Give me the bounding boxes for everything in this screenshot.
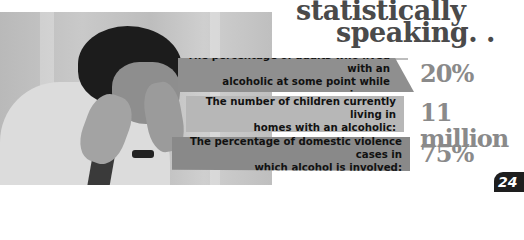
stat-label-line: homes with an alcoholic: (254, 121, 396, 134)
page-number-badge: 24 (494, 172, 524, 192)
stat-label-line: The percentage of domestic violence case… (172, 135, 402, 161)
stat-value-domestic-violence: 75% (420, 141, 473, 167)
stat-label-children-living: The number of children currently living … (186, 96, 404, 132)
stat-label-line: which alcohol is involved: (254, 161, 402, 174)
stat-value-adults-growing-up: 20% (420, 61, 473, 87)
stat-label-adults-growing-up: The percentage of adults who lived with … (178, 58, 414, 92)
stat-label-domestic-violence: The percentage of domestic violence case… (172, 137, 410, 171)
wristwatch (132, 150, 154, 158)
stat-label-line: The number of children currently living … (186, 95, 396, 121)
